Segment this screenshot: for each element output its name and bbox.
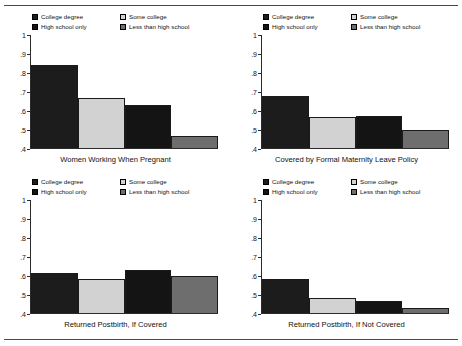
figure: College degreeSome collegeHigh school on… [0,0,462,346]
plot-area: 1.9.8.7.6.5.4 [261,200,449,314]
chart-legend: College degreeSome collegeHigh school on… [263,12,455,31]
legend-item-label: Less than high school [129,187,189,196]
legend-item: High school only [263,22,351,31]
legend-item-label: Less than high school [129,22,189,31]
legend-item-label: High school only [41,22,87,31]
legend-swatch-icon [120,179,126,185]
x-axis [30,148,218,149]
plot-area: 1.9.8.7.6.5.4 [261,35,449,149]
y-axis-tick-mark [258,73,261,74]
y-axis-tick-mark [258,111,261,112]
y-axis-tick-label: .8 [20,235,26,242]
legend-item-label: Less than high school [360,22,420,31]
y-axis-tick-mark [27,276,30,277]
chart-panel: College degreeSome collegeHigh school on… [0,9,231,174]
y-axis-tick-mark [27,54,30,55]
y-axis-tick-label: .5 [20,292,26,299]
y-axis-tick-label: .4 [251,311,257,318]
y-axis-tick-mark [27,111,30,112]
legend-item-label: High school only [272,187,318,196]
y-axis-tick-label: .6 [20,108,26,115]
y-axis-tick-label: .8 [251,70,257,77]
y-axis-tick-label: .6 [20,273,26,280]
y-axis-tick-label: .9 [251,51,257,58]
legend-swatch-icon [263,179,269,185]
panel-caption: Returned Postbirth, If Not Covered [231,320,462,330]
legend-item-label: Some college [129,12,167,21]
bar [262,279,309,313]
legend-swatch-icon [263,14,269,20]
y-axis-tick-mark [258,54,261,55]
legend-swatch-icon [32,179,38,185]
legend-swatch-icon [32,189,38,195]
legend-item: Some college [351,12,455,21]
legend-item: High school only [32,187,120,196]
y-axis-tick-label: 1 [22,32,26,39]
y-axis-tick-label: .6 [251,273,257,280]
y-axis-tick-mark [27,219,30,220]
bar [31,65,78,148]
legend-swatch-icon [32,24,38,30]
legend-item-label: Some college [360,12,398,21]
figure-top-rule [4,5,458,6]
bar [402,308,449,313]
legend-swatch-icon [263,24,269,30]
y-axis-tick-mark [27,238,30,239]
y-axis-tick-label: .5 [251,127,257,134]
legend-item: Less than high school [351,22,455,31]
chart-legend: College degreeSome collegeHigh school on… [32,177,224,196]
y-axis-tick-mark [258,92,261,93]
bar [356,116,403,148]
bar [309,298,356,313]
y-axis-tick-label: .7 [20,254,26,261]
panel-caption: Returned Postbirth, If Covered [0,320,231,330]
y-axis-tick-label: 1 [253,197,257,204]
legend-item: Less than high school [120,187,224,196]
bar [402,130,449,148]
legend-item: College degree [32,177,120,186]
legend-swatch-icon [351,14,357,20]
legend-item-label: College degree [272,177,314,186]
bar-group [31,200,218,313]
chart-panel: College degreeSome collegeHigh school on… [231,174,462,339]
legend-swatch-icon [120,189,126,195]
bar [171,276,218,313]
chart-panel: College degreeSome collegeHigh school on… [231,9,462,174]
legend-swatch-icon [351,179,357,185]
y-axis-tick-label: .5 [20,127,26,134]
bar [125,105,172,148]
y-axis-tick-mark [27,73,30,74]
y-axis-tick-label: 1 [253,32,257,39]
chart-legend: College degreeSome collegeHigh school on… [263,177,455,196]
legend-item-label: High school only [41,187,87,196]
y-axis-tick-mark [258,149,261,150]
legend-item: Less than high school [120,22,224,31]
y-axis-tick-label: .9 [251,216,257,223]
plot-area: 1.9.8.7.6.5.4 [30,35,218,149]
y-axis-tick-mark [27,200,30,201]
legend-swatch-icon [351,24,357,30]
x-axis [30,313,218,314]
y-axis-tick-mark [258,200,261,201]
panel-caption: Women Working When Pregnant [0,155,231,165]
legend-item: College degree [32,12,120,21]
bar [78,279,125,313]
chart-panel: College degreeSome collegeHigh school on… [0,174,231,339]
legend-swatch-icon [263,189,269,195]
y-axis-tick-mark [27,314,30,315]
plot-area: 1.9.8.7.6.5.4 [30,200,218,314]
legend-swatch-icon [32,14,38,20]
y-axis-tick-label: .8 [20,70,26,77]
legend-swatch-icon [120,14,126,20]
y-axis-tick-mark [258,314,261,315]
y-axis-tick-mark [258,257,261,258]
legend-item-label: College degree [41,12,83,21]
figure-bottom-rule [4,339,458,340]
y-axis-tick-label: .5 [251,292,257,299]
y-axis-tick-label: .4 [20,146,26,153]
x-axis [261,148,449,149]
legend-item-label: Less than high school [360,187,420,196]
legend-item-label: High school only [272,22,318,31]
y-axis-tick-label: .7 [20,89,26,96]
bar [356,301,403,313]
